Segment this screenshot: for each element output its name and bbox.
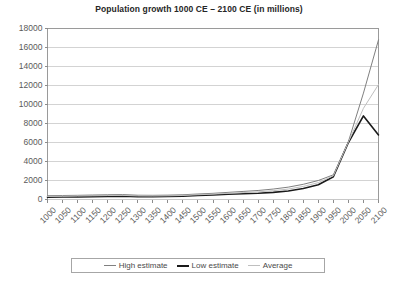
y-tick-label: 16000 — [19, 42, 43, 52]
axis-lines — [48, 29, 379, 200]
y-tick-label: 6000 — [24, 137, 43, 147]
legend-label: High estimate — [119, 261, 168, 270]
legend-item-0[interactable]: High estimate — [104, 261, 168, 270]
data-series — [48, 40, 379, 197]
chart-legend: High estimateLow estimateAverage — [71, 258, 325, 273]
chart-container: Population growth 1000 CE – 2100 CE (in … — [0, 0, 398, 290]
y-tick-label: 2000 — [24, 175, 43, 185]
y-tick-label: 0 — [38, 194, 43, 204]
y-tick-label: 12000 — [19, 80, 43, 90]
legend-item-1[interactable]: Low estimate — [177, 261, 239, 270]
legend-label: Average — [263, 261, 293, 270]
series-line-0 — [48, 40, 379, 196]
legend-swatch-icon — [104, 265, 116, 266]
legend-swatch-icon — [248, 265, 260, 266]
series-line-1 — [48, 116, 379, 197]
gridlines — [48, 29, 379, 200]
y-tick-label: 4000 — [24, 156, 43, 166]
y-tick-label: 10000 — [19, 99, 43, 109]
legend-swatch-icon — [177, 265, 189, 267]
legend-item-2[interactable]: Average — [248, 261, 293, 270]
y-tick-label: 14000 — [19, 61, 43, 71]
legend-label: Low estimate — [192, 261, 239, 270]
y-tick-label: 18000 — [19, 23, 43, 33]
y-tick-label: 8000 — [24, 118, 43, 128]
